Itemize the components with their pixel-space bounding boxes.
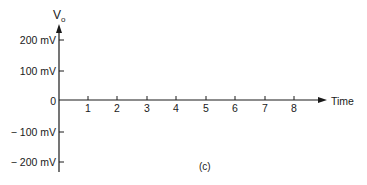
- y-tick-label: 100 mV: [20, 65, 56, 77]
- y-axis-title: Vo: [53, 9, 65, 26]
- x-tick-label: 8: [291, 102, 297, 114]
- x-tick-label: 4: [173, 102, 179, 114]
- y-tick-label: − 200 mV: [11, 156, 56, 168]
- x-tick-label: 5: [203, 102, 209, 114]
- x-tick-label: 1: [85, 102, 91, 114]
- y-tick-label: − 100 mV: [11, 126, 56, 138]
- figure-caption: (c): [199, 161, 211, 173]
- x-tick-label: 3: [144, 102, 150, 114]
- y-tick-label: 0: [50, 95, 56, 107]
- x-axis-title: Time: [331, 95, 354, 107]
- x-axis-arrow-icon: [318, 97, 327, 103]
- x-tick-label: 7: [262, 102, 268, 114]
- y-tick-label: 200 mV: [20, 34, 56, 46]
- x-tick-label: 2: [114, 102, 120, 114]
- x-tick-label: 6: [232, 102, 238, 114]
